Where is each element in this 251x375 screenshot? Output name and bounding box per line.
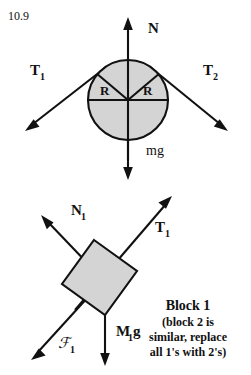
radius-label-left: R <box>100 83 110 98</box>
weight-label: mg <box>146 143 164 158</box>
block-tension-label: T <box>155 219 165 235</box>
physics-figure-canvas: 10.9 N mg T 1 <box>0 0 251 375</box>
problem-number: 10.9 <box>8 9 29 23</box>
tension-1-label: T <box>30 62 40 78</box>
block-caption: Block 1 (block 2 is similar, replace all… <box>149 298 228 359</box>
caption-line-1: (block 2 is <box>162 315 214 329</box>
tension-1-subscript: 1 <box>40 71 45 82</box>
pulley-free-body-diagram: N mg T 1 T 2 <box>25 17 228 180</box>
block-normal-force-subscript: 1 <box>81 211 86 222</box>
caption-title: Block 1 <box>166 298 211 313</box>
block-friction-subscript: 1 <box>70 344 75 355</box>
block-weight-gravity-label: g <box>133 323 141 339</box>
block-tension-subscript: 1 <box>165 228 170 239</box>
figure-root: 10.9 N mg T 1 <box>0 0 251 375</box>
tension-2-subscript: 2 <box>213 71 218 82</box>
radius-label-right: R <box>143 83 153 98</box>
caption-line-3: all 1's with 2's) <box>150 345 226 359</box>
normal-force-label: N <box>148 20 159 36</box>
tension-2-label: T <box>203 62 213 78</box>
caption-line-2: similar, replace <box>149 330 228 344</box>
